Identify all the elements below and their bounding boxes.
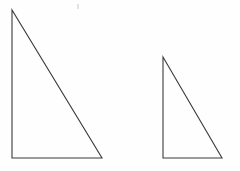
- large-right-triangle: [12, 10, 102, 158]
- triangles-svg: [0, 0, 240, 171]
- scan-speck-artifact: [77, 4, 79, 9]
- small-right-triangle: [163, 57, 222, 158]
- figure-canvas: [0, 0, 240, 171]
